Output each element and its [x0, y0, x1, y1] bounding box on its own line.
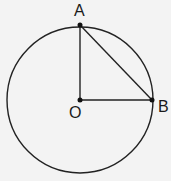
point-B: [150, 98, 155, 103]
point-A: [78, 23, 83, 28]
point-O: [78, 98, 83, 103]
label-A: A: [74, 2, 85, 19]
label-O: O: [69, 104, 81, 121]
label-B: B: [158, 98, 169, 115]
geometry-diagram: A B O: [0, 0, 171, 181]
